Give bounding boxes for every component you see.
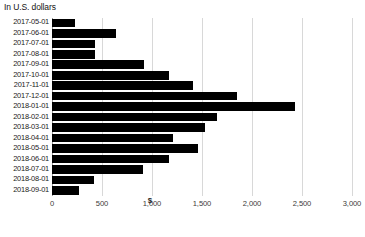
x-tick-label: 3,000 — [343, 199, 362, 208]
category-label: 2017-12-01 — [13, 91, 49, 101]
bar — [52, 50, 95, 59]
x-tick-label: 0 — [50, 199, 54, 208]
x-tick-label: 500 — [96, 199, 108, 208]
bar-chart: In U.S. dollars 2017-05-012017-06-012017… — [0, 0, 365, 237]
category-label: 2017-05-01 — [13, 17, 49, 27]
bar-row: 2018-03-01 — [52, 123, 352, 133]
category-label: 2018-04-01 — [13, 133, 49, 143]
bar-row: 2017-10-01 — [52, 70, 352, 80]
bar-row: 2017-11-01 — [52, 81, 352, 91]
chart-title: In U.S. dollars — [4, 2, 56, 12]
bar — [52, 155, 169, 164]
bar — [52, 144, 198, 153]
category-label: 2017-06-01 — [13, 28, 49, 38]
bar — [52, 102, 295, 111]
bar — [52, 71, 169, 80]
bar — [52, 60, 144, 69]
bar-row: 2017-07-01 — [52, 39, 352, 49]
bar — [52, 123, 205, 132]
bar-row: 2018-01-01 — [52, 102, 352, 112]
category-label: 2017-08-01 — [13, 49, 49, 59]
bar — [52, 113, 217, 122]
bar-row: 2017-06-01 — [52, 28, 352, 38]
bar-row: 2018-09-01 — [52, 186, 352, 196]
category-label: 2018-09-01 — [13, 185, 49, 195]
bar-row: 2017-08-01 — [52, 49, 352, 59]
bar — [52, 92, 237, 101]
bar-row: 2018-07-01 — [52, 165, 352, 175]
bar-rows: 2017-05-012017-06-012017-07-012017-08-01… — [52, 18, 352, 196]
bar — [52, 19, 75, 28]
category-label: 2018-07-01 — [13, 164, 49, 174]
category-label: 2018-01-01 — [13, 101, 49, 111]
bar — [52, 29, 116, 38]
x-tick-label: 2,500 — [293, 199, 312, 208]
category-label: 2018-06-01 — [13, 154, 49, 164]
bar — [52, 40, 95, 49]
category-label: 2018-08-01 — [13, 174, 49, 184]
bar-row: 2018-06-01 — [52, 154, 352, 164]
bar — [52, 134, 173, 143]
bar — [52, 165, 143, 174]
category-label: 2017-07-01 — [13, 38, 49, 48]
bar-row: 2018-05-01 — [52, 144, 352, 154]
bar-row: 2018-02-01 — [52, 112, 352, 122]
x-axis-label: $ — [130, 196, 170, 205]
category-label: 2018-03-01 — [13, 122, 49, 132]
bar-row: 2017-05-01 — [52, 18, 352, 28]
category-label: 2017-11-01 — [14, 80, 49, 90]
bar — [52, 81, 193, 90]
bar-row: 2017-09-01 — [52, 60, 352, 70]
x-tick-label: 1,500 — [193, 199, 212, 208]
bar — [52, 186, 79, 195]
x-tick-label: 2,000 — [243, 199, 262, 208]
category-label: 2017-09-01 — [13, 59, 49, 69]
category-label: 2018-02-01 — [13, 112, 49, 122]
bar-row: 2017-12-01 — [52, 91, 352, 101]
plot-area: 2017-05-012017-06-012017-07-012017-08-01… — [52, 18, 352, 196]
bar — [52, 176, 94, 185]
bar-row: 2018-08-01 — [52, 175, 352, 185]
category-label: 2018-05-01 — [13, 143, 49, 153]
category-label: 2017-10-01 — [13, 70, 49, 80]
bar-row: 2018-04-01 — [52, 133, 352, 143]
gridline-3000 — [352, 18, 353, 196]
